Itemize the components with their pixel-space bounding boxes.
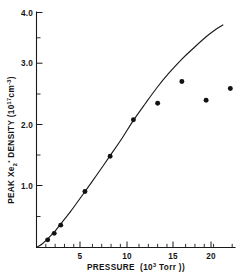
data-point [82, 189, 87, 194]
x-axis-title-unit: Torr ) [156, 263, 182, 272]
x-tick-label-20: 20 [206, 252, 216, 261]
x-axis-title: PRESSURE (103 Torr )) [87, 262, 185, 272]
data-point [155, 101, 160, 106]
x-axis-title-name: PRESSURE [87, 263, 135, 272]
y-tick-label-2: 2.0 [21, 121, 33, 130]
x-tick-label-10: 10 [122, 252, 132, 261]
y-axis-ticks [37, 13, 43, 217]
y-tick-label-4: 4.0 [21, 9, 33, 18]
y-tick-label-1: 1.0 [21, 182, 33, 191]
model-curve [37, 25, 223, 248]
chart-figure: 4.0 3.0 2.0 1.0 5 10 15 20 PRESSU [0, 0, 248, 276]
x-axis-title-open: (10 [140, 263, 153, 272]
y-tick-label-3: 3.0 [21, 59, 33, 68]
data-point [228, 86, 233, 91]
y-axis-title-name: PEAK Xe [7, 166, 16, 204]
data-point [58, 223, 63, 228]
y-axis-title-unit: cm [7, 85, 16, 98]
data-point [131, 117, 136, 122]
axis-spines [37, 12, 236, 248]
x-tick-label-5: 5 [78, 252, 83, 261]
data-point [204, 98, 209, 103]
data-point [52, 231, 57, 236]
data-point [45, 237, 50, 242]
scatter-plot: 4.0 3.0 2.0 1.0 5 10 15 20 PRESSU [0, 0, 248, 276]
data-point-group [45, 79, 233, 242]
x-tick-label-15: 15 [168, 252, 178, 261]
x-tick-labels: 5 10 15 20 [78, 252, 216, 261]
y-axis-title-density: DENSITY (10 [7, 104, 16, 160]
data-point [179, 79, 184, 84]
y-axis-title-exponent: 17 [6, 97, 12, 104]
plot-axes [37, 12, 236, 248]
data-point [108, 154, 113, 159]
svg-text:PEAK Xe2* DENSITY (1017cm-3): PEAK Xe2* DENSITY (1017cm-3) [6, 76, 18, 204]
y-axis-title: PEAK Xe2* DENSITY (1017cm-3) [6, 76, 18, 204]
model-curve-group [37, 25, 223, 248]
y-tick-labels: 4.0 3.0 2.0 1.0 [21, 9, 33, 191]
y-axis-title-close: ) [7, 76, 16, 79]
svg-text:PRESSURE (103 Torr )): PRESSURE (103 Torr )) [87, 262, 185, 272]
x-axis-ticks [46, 242, 232, 248]
